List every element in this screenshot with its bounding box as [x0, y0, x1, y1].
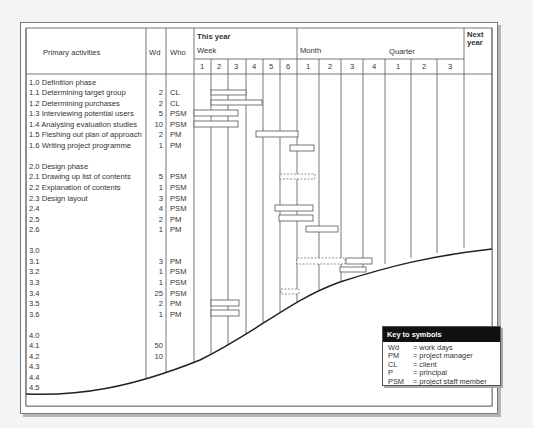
activity-label: 4.0	[29, 331, 40, 341]
workdays-value: 10	[149, 120, 163, 130]
quarter-1: 1	[396, 62, 400, 71]
activity-label: 2.0 Design phase	[29, 162, 88, 172]
who-value: PM	[170, 225, 181, 235]
workdays-value: 4	[149, 204, 163, 214]
workdays-value: 2	[149, 88, 163, 98]
activity-label: 4.1	[29, 341, 40, 351]
quarter-3: 3	[448, 62, 452, 71]
workdays-value: 3	[149, 257, 163, 267]
key-meaning-psm: = project staff member	[413, 378, 487, 386]
month-1: 1	[306, 62, 310, 71]
activity-label: 1.0 Definition phase	[29, 78, 96, 88]
activity-label: 3.4	[29, 289, 40, 299]
workdays-value: 5	[149, 109, 163, 119]
workdays-value: 25	[149, 289, 163, 299]
activity-label: 1.1 Determining target group	[29, 88, 126, 98]
quarter-2: 2	[422, 62, 426, 71]
header-activities: Primary activities	[43, 48, 100, 57]
header-this-year: This year	[197, 32, 230, 41]
activity-label: 4.3	[29, 362, 40, 372]
workdays-value: 2	[149, 299, 163, 309]
workdays-value: 1	[149, 141, 163, 151]
activity-label: 1.5 Fleshing out plan of approach	[29, 130, 142, 140]
who-value: PM	[170, 215, 181, 225]
who-value: PSM	[170, 194, 186, 204]
activity-label: 3.1	[29, 257, 40, 267]
who-value: PSM	[170, 204, 186, 214]
activity-label: 4.2	[29, 352, 40, 362]
who-value: PSM	[170, 120, 186, 130]
activity-label: 4.5	[29, 383, 40, 393]
activity-label: 3.3	[29, 278, 40, 288]
workdays-value: 2	[149, 130, 163, 140]
workdays-value: 2	[149, 99, 163, 109]
month-4: 4	[372, 62, 376, 71]
week-1: 1	[200, 62, 204, 71]
who-value: PM	[170, 130, 181, 140]
activity-label: 1.4 Analysing evaluation studies	[29, 120, 137, 130]
who-value: PSM	[170, 172, 186, 182]
activity-label: 3.6	[29, 310, 40, 320]
workdays-value: 2	[149, 215, 163, 225]
activity-label: 2.1 Drawing up list of contents	[29, 172, 131, 182]
who-value: PM	[170, 141, 181, 151]
workdays-value: 10	[149, 352, 163, 362]
week-3: 3	[234, 62, 238, 71]
key-to-symbols: Key to symbols Wd = work days PM = proje…	[382, 326, 501, 386]
activity-label: 1.2 Determining purchases	[29, 99, 120, 109]
header-month: Month	[300, 46, 321, 55]
who-value: PSM	[170, 109, 186, 119]
week-5: 5	[269, 62, 273, 71]
week-6: 6	[286, 62, 290, 71]
header-next-year: Next year	[467, 31, 491, 47]
header-who: Who	[170, 48, 186, 57]
workdays-value: 50	[149, 341, 163, 351]
who-value: PSM	[170, 278, 186, 288]
key-title: Key to symbols	[383, 327, 500, 342]
who-value: PM	[170, 257, 181, 267]
header-quarter: Quarter	[389, 47, 415, 56]
who-value: PSM	[170, 183, 186, 193]
activity-label: 2.5	[29, 215, 40, 225]
month-2: 2	[328, 62, 332, 71]
month-3: 3	[350, 62, 354, 71]
key-abbr-psm: PSM	[388, 378, 404, 386]
workdays-value: 1	[149, 310, 163, 320]
activity-label: 4.4	[29, 373, 40, 383]
header-wd: Wd	[149, 48, 160, 57]
workdays-value: 1	[149, 183, 163, 193]
activity-label: 2.3 Design layout	[29, 194, 88, 204]
who-value: CL	[170, 99, 180, 109]
week-2: 2	[217, 62, 221, 71]
who-value: PSM	[170, 267, 186, 277]
activity-label: 3.5	[29, 299, 40, 309]
activity-label: 1.6 Writing project programme	[29, 141, 131, 151]
activity-label: 2.4	[29, 204, 40, 214]
header-week: Week	[197, 46, 216, 55]
workdays-value: 1	[149, 278, 163, 288]
workdays-value: 3	[149, 194, 163, 204]
activity-label: 3.0	[29, 246, 40, 256]
activity-label: 2.2 Explanation of contents	[29, 183, 121, 193]
workdays-value: 1	[149, 225, 163, 235]
activity-label: 2.6	[29, 225, 40, 235]
activity-label: 3.2	[29, 267, 40, 277]
who-value: PM	[170, 310, 181, 320]
who-value: PSM	[170, 289, 186, 299]
workdays-value: 5	[149, 172, 163, 182]
workdays-value: 1	[149, 267, 163, 277]
week-4: 4	[252, 62, 256, 71]
who-value: CL	[170, 88, 180, 98]
activity-label: 1.3 Interviewing potential users	[29, 109, 134, 119]
who-value: PM	[170, 299, 181, 309]
